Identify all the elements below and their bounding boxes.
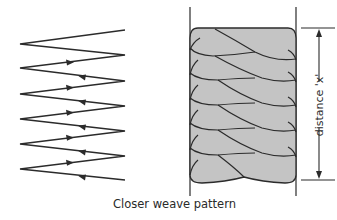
arrow-right-icon xyxy=(66,85,74,91)
zigzag-path xyxy=(20,30,125,180)
weave-diagram: distance 'x' Closer weave pattern xyxy=(0,0,337,220)
dimension-label: distance 'x' xyxy=(313,74,326,137)
figure-caption: Closer weave pattern xyxy=(0,197,337,211)
arrow-right-icon xyxy=(66,110,74,116)
arrow-right-icon xyxy=(66,60,74,66)
arrow-right-icon xyxy=(66,135,74,141)
arrow-up-icon xyxy=(316,29,322,37)
arrow-right-icon xyxy=(66,160,74,166)
arrow-down-icon xyxy=(316,171,322,179)
weave-bead xyxy=(190,28,296,183)
